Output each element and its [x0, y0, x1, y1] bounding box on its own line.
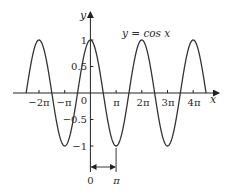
period-start-label: 0: [87, 175, 93, 186]
period-end-label: π: [112, 175, 120, 186]
xtick-label: π: [113, 97, 120, 108]
ytick-label: 1: [81, 35, 87, 46]
ytick-label: −1: [72, 141, 87, 152]
xtick-label: −π: [57, 97, 72, 108]
y-axis-label: y: [79, 9, 87, 22]
xtick-label: −2π: [28, 97, 50, 108]
x-axis-label: x: [210, 93, 217, 106]
equation-label: y = cos x: [121, 27, 170, 39]
chart-canvas: y x y = cos x −2π −π 0 π 2π 3π 4π 1 0.5 …: [0, 0, 230, 195]
ytick-label: −0.5: [63, 114, 87, 125]
xtick-label: 3π: [162, 97, 175, 108]
xtick-label: 2π: [137, 97, 150, 108]
cosine-chart: y x y = cos x −2π −π 0 π 2π 3π 4π 1 0.5 …: [0, 0, 230, 195]
xtick-label: 4π: [188, 97, 201, 108]
xtick-label: 0: [81, 95, 87, 106]
ytick-label: 0.5: [71, 61, 87, 72]
